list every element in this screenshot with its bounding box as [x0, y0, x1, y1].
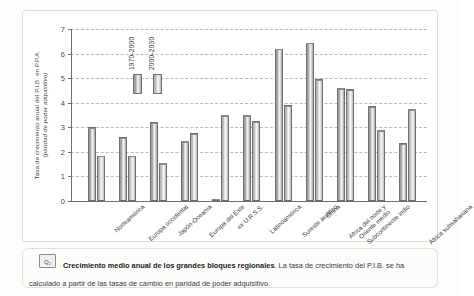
bar [221, 115, 229, 201]
bar-group [330, 29, 361, 201]
bar-group [174, 29, 205, 201]
y-tick-label-3: 3 [61, 123, 65, 132]
y-tick-label-7: 7 [61, 25, 65, 34]
x-axis-label: China [324, 203, 341, 220]
y-axis-title-line2: (paridad de poder adquisitivo) [41, 73, 48, 158]
figure-number-badge: Q₂ [39, 254, 56, 268]
bar [399, 143, 407, 201]
x-axis-label: Norteamérica [112, 203, 145, 234]
bar [408, 109, 416, 201]
bar [88, 127, 96, 201]
bar-group [205, 29, 236, 201]
bar [275, 49, 283, 201]
bar-group [236, 29, 267, 201]
y-tick-label-6: 6 [61, 49, 65, 58]
bar [243, 115, 251, 201]
bar [212, 199, 220, 201]
bar [190, 133, 198, 201]
bar [119, 137, 127, 201]
x-axis-label: Europa occidental [147, 203, 189, 242]
y-axis-title: Tasa de crecimiento anual del P.I.B. en … [33, 29, 49, 201]
bar [252, 121, 260, 201]
bar [150, 122, 158, 201]
caption-lead: Crecimiento medio anual de los grandes b… [63, 261, 275, 270]
y-tick-label-0: 0 [61, 197, 65, 206]
bar [346, 89, 354, 201]
bar [97, 156, 105, 201]
bar [368, 106, 376, 201]
bar-group [143, 29, 174, 201]
bar [128, 156, 136, 201]
y-tick-label-1: 1 [61, 172, 65, 181]
caption-text: Crecimiento medio anual de los grandes b… [29, 261, 404, 288]
plot-area: 01234567 1970-20002000-2030 [71, 29, 427, 201]
y-axis-line [71, 29, 72, 201]
figure-panel: Tasa de crecimiento anual del P.I.B. en … [22, 10, 438, 242]
bar [337, 88, 345, 201]
bar [284, 105, 292, 201]
bar-group [392, 29, 423, 201]
bar [377, 130, 385, 201]
bar [315, 79, 323, 201]
bar [159, 163, 167, 201]
bar-group [81, 29, 112, 201]
bar [306, 43, 314, 201]
y-tick-0 [68, 201, 72, 202]
bar-group [268, 29, 299, 201]
gridline-0 [71, 201, 427, 202]
bar-group [361, 29, 392, 201]
bar-group [112, 29, 143, 201]
bar-group [299, 29, 330, 201]
y-tick-label-5: 5 [61, 74, 65, 83]
caption-panel: Q₂Crecimiento medio anual de los grandes… [22, 248, 438, 288]
y-tick-label-4: 4 [61, 98, 65, 107]
x-axis-label: África subsahariana [428, 203, 474, 246]
x-axis-label: Latinoamérica [268, 203, 302, 235]
y-tick-label-2: 2 [61, 147, 65, 156]
bar [181, 141, 189, 201]
y-axis-title-line1: Tasa de crecimiento anual del P.I.B. en … [33, 51, 40, 180]
